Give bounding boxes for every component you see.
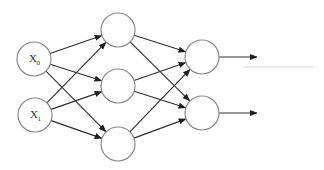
node-circle [101, 69, 135, 103]
input-node-x0: X0 [17, 42, 51, 76]
edge-h1-to-o0 [134, 63, 186, 81]
output-node-o0 [185, 40, 219, 74]
edge-h0-to-o0 [134, 35, 186, 52]
edge-h2-to-o1 [134, 119, 186, 138]
edge-x1-to-h1 [51, 92, 102, 110]
neural-network-diagram: X0X1 [0, 0, 324, 170]
output-node-o1 [185, 96, 219, 130]
node-label-subscript: 1 [38, 115, 42, 123]
edge-x0-to-h0 [50, 36, 102, 54]
edge-h1-to-o1 [134, 91, 186, 108]
hidden-node-h1 [101, 69, 135, 103]
output-arrows [219, 57, 257, 113]
hidden-node-h0 [101, 13, 135, 47]
node-label-subscript: 0 [37, 59, 41, 67]
node-circle [185, 40, 219, 74]
edge-x0-to-h2 [46, 71, 106, 132]
node-circle [101, 13, 135, 47]
node-circle [185, 96, 219, 130]
neuron-nodes: X0X1 [17, 13, 219, 161]
edge-x1-to-h2 [51, 121, 102, 139]
input-node-x1: X1 [18, 98, 52, 132]
hidden-node-h2 [101, 127, 135, 161]
node-circle [101, 127, 135, 161]
